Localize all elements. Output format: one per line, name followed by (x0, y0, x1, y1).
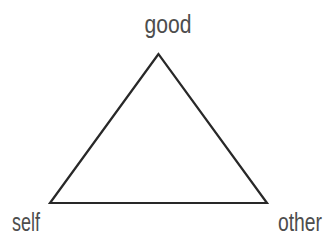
triangle-diagram: good self other (0, 0, 334, 239)
diagram-canvas: good self other (0, 0, 334, 239)
vertex-label-bottom-right: other (278, 208, 322, 236)
vertex-label-top: good (145, 10, 192, 38)
triangle-shape (50, 54, 267, 203)
vertex-label-bottom-left: self (12, 208, 40, 236)
